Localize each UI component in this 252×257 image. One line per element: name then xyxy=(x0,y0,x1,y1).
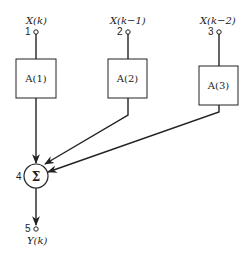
input-signal-label-1: X(k) xyxy=(25,15,47,26)
summing-junction: 4 Σ xyxy=(16,164,48,188)
summer-node-number: 4 xyxy=(16,171,22,182)
output-node-5: 5 Y(k) xyxy=(25,223,48,246)
block-label-a3: A(3) xyxy=(207,80,229,91)
block-diagram: X(k) 1 A(1) X(k−1) 2 A(2) X(k−2) 3 A(3) … xyxy=(0,0,252,257)
node-terminal-icon xyxy=(34,227,38,231)
arrow-a3-to-sum xyxy=(48,105,219,172)
input-signal-label-3: X(k−2) xyxy=(199,15,236,26)
node-terminal-icon xyxy=(217,30,221,34)
input-node-1: X(k) 1 xyxy=(25,15,47,37)
block-a1: A(1) xyxy=(16,59,56,98)
input-node-number-1: 1 xyxy=(25,26,31,37)
block-a3: A(3) xyxy=(199,66,238,105)
input-node-2: X(k−1) 2 xyxy=(109,15,146,37)
arrow-a2-to-sum xyxy=(45,98,128,164)
node-terminal-icon xyxy=(34,30,38,34)
block-label-a1: A(1) xyxy=(24,73,46,84)
node-terminal-icon xyxy=(126,30,130,34)
block-a2: A(2) xyxy=(108,59,147,98)
sigma-icon: Σ xyxy=(32,170,40,184)
input-node-number-2: 2 xyxy=(117,26,123,37)
output-signal-label: Y(k) xyxy=(27,235,48,246)
block-label-a2: A(2) xyxy=(116,73,138,84)
input-node-3: X(k−2) 3 xyxy=(199,15,236,37)
output-node-number: 5 xyxy=(25,223,31,234)
input-node-number-3: 3 xyxy=(208,26,214,37)
input-signal-label-2: X(k−1) xyxy=(109,15,146,26)
